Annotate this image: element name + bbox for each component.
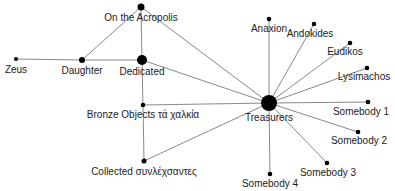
node-label-treasurers: Treasurers [245, 112, 293, 123]
edge-treasurers-somebody1 [269, 102, 368, 103]
node-label-daughter: Daughter [61, 65, 103, 76]
node-somebody3 [325, 161, 330, 166]
node-label-acropolis: On the Acropolis [104, 12, 177, 23]
node-somebody1 [366, 100, 371, 105]
edge-bronze-treasurers [143, 103, 269, 105]
node-zeus [14, 57, 18, 61]
node-label-dedicated: Dedicated [119, 66, 164, 77]
node-daughter [79, 57, 85, 63]
node-lysimachos [365, 66, 370, 71]
node-label-andokides: Andokides [287, 28, 334, 39]
edge-zeus-daughter [16, 59, 82, 60]
node-andokides [312, 22, 317, 27]
node-eudikos [348, 41, 353, 46]
node-label-somebody1: Somebody 1 [333, 106, 390, 117]
node-label-somebody2: Somebody 2 [331, 135, 388, 146]
node-treasurers [261, 95, 277, 111]
node-anaxion [267, 17, 272, 22]
node-label-somebody3: Somebody 3 [300, 167, 357, 178]
node-acropolis [138, 4, 145, 11]
node-collected [142, 159, 147, 164]
network-diagram: On the AcropolisZeusDaughterDedicatedBro… [0, 0, 395, 191]
node-dedicated [137, 55, 147, 65]
node-label-zeus: Zeus [5, 64, 27, 75]
node-label-lysimachos: Lysimachos [338, 71, 390, 82]
node-somebody2 [356, 130, 361, 135]
labels-layer: On the AcropolisZeusDaughterDedicatedBro… [5, 12, 390, 189]
node-bronze [141, 103, 146, 108]
node-label-collected: Collected συνλέχσαντες [91, 166, 197, 177]
node-label-somebody4: Somebody 4 [242, 178, 299, 189]
node-somebody4 [268, 172, 273, 177]
node-label-anaxion: Anaxion [251, 23, 287, 34]
node-label-bronze: Bronze Objects τά χαλκία [87, 109, 199, 120]
node-label-eudikos: Eudikos [327, 46, 363, 57]
